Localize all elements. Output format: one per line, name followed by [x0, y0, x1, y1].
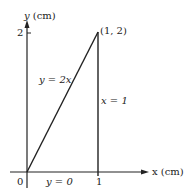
point-label: (1, 2): [100, 26, 127, 36]
x-axis-arrow-icon: [141, 170, 149, 175]
y-axis-arrow-icon: [25, 20, 30, 28]
y-axis-label: y (cm): [24, 11, 56, 21]
vertical-line-label: x = 1: [101, 96, 128, 106]
y-tick-label: 2: [17, 28, 23, 38]
origin-label: 0: [17, 177, 23, 187]
x-axis-label: x (cm): [152, 167, 184, 177]
bottom-line-label: y = 0: [46, 177, 73, 187]
line-y-equals-2x: [27, 32, 98, 172]
x-tick-label: 1: [96, 177, 102, 187]
diagonal-line-label: y = 2x: [39, 75, 71, 85]
